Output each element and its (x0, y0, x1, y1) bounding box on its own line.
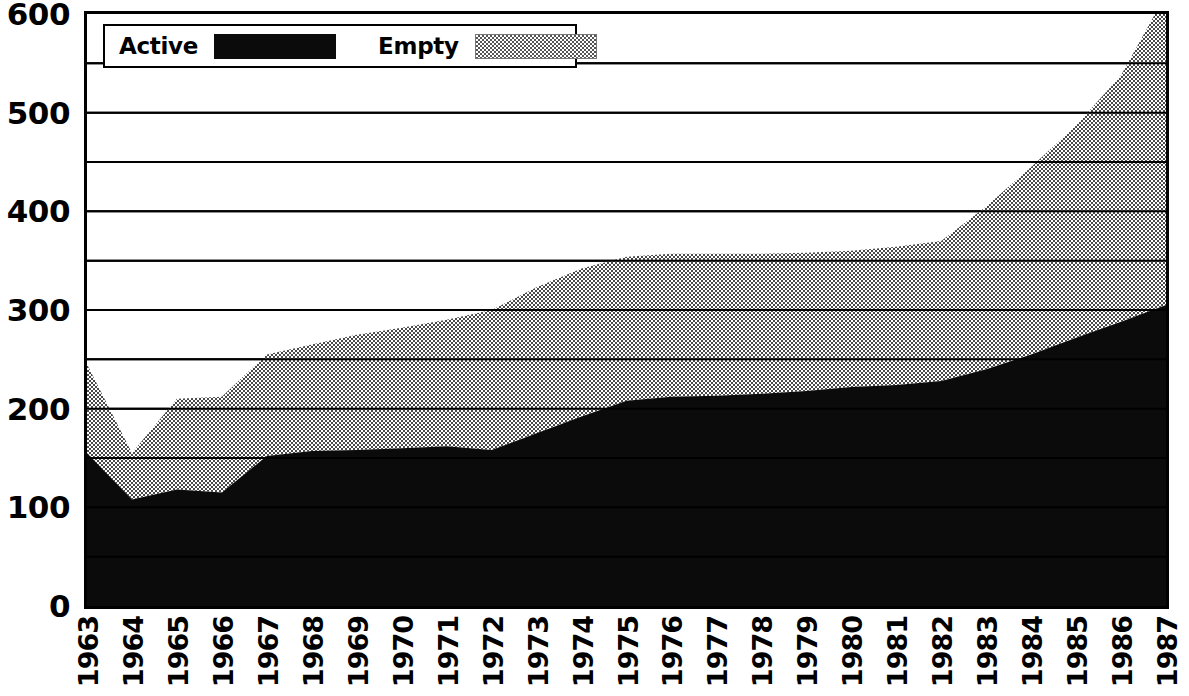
y-tick-label: 100 (7, 492, 70, 523)
x-tick-label: 1976 (659, 616, 686, 687)
y-tick-label: 200 (7, 393, 70, 424)
x-tick-label: 1963 (75, 616, 102, 687)
x-axis: 1963196419651966196719681969197019711972… (84, 612, 1169, 696)
y-tick-label: 300 (7, 295, 70, 326)
x-tick-label: 1970 (390, 616, 417, 687)
x-tick-label: 1967 (255, 616, 282, 687)
x-tick-label: 1980 (839, 616, 866, 687)
x-tick-label: 1983 (974, 616, 1001, 687)
x-tick-label: 1984 (1019, 616, 1046, 687)
legend-swatch-active-icon (214, 34, 336, 59)
x-tick-label: 1986 (1109, 616, 1136, 687)
legend-label-active: Active (119, 33, 198, 59)
legend-item-empty: Empty (378, 33, 597, 59)
x-tick-label: 1969 (345, 616, 372, 687)
x-tick-label: 1982 (929, 616, 956, 687)
plot-area: Active Empty (84, 11, 1169, 609)
x-tick-label: 1968 (300, 616, 327, 687)
x-tick-label: 1987 (1154, 616, 1181, 687)
y-tick-label: 0 (49, 591, 70, 622)
x-tick-label: 1971 (435, 616, 462, 687)
x-tick-label: 1981 (884, 616, 911, 687)
x-tick-label: 1985 (1064, 616, 1091, 687)
x-tick-label: 1977 (704, 616, 731, 687)
x-tick-label: 1972 (480, 616, 507, 687)
x-tick-label: 1966 (210, 616, 237, 687)
x-tick-label: 1979 (794, 616, 821, 687)
x-tick-label: 1975 (615, 616, 642, 687)
plot-svg (87, 14, 1166, 606)
y-tick-label: 400 (7, 196, 70, 227)
stacked-area-chart: 6005004003002001000 Active Empty (0, 0, 1189, 696)
x-tick-label: 1973 (525, 616, 552, 687)
x-tick-label: 1965 (165, 616, 192, 687)
x-tick-label: 1978 (749, 616, 776, 687)
x-tick-label: 1974 (570, 616, 597, 687)
y-tick-label: 600 (7, 0, 70, 30)
legend-item-active: Active (119, 33, 336, 59)
legend-label-empty: Empty (378, 33, 459, 59)
chart-legend: Active Empty (103, 24, 577, 68)
y-axis: 6005004003002001000 (0, 0, 78, 620)
legend-swatch-empty-icon (475, 34, 597, 59)
x-tick-label: 1964 (120, 616, 147, 687)
y-tick-label: 500 (7, 97, 70, 128)
